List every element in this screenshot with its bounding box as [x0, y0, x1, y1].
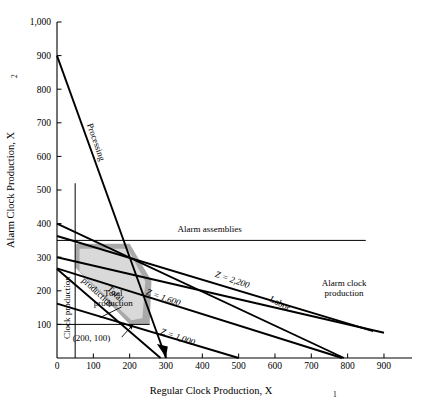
x-axis-title-text: Regular Clock Production, X	[150, 385, 273, 396]
y-tick-label: 800	[37, 85, 52, 95]
y-tick-label: 700	[37, 118, 52, 128]
x-tick-label: 600	[268, 361, 283, 371]
x-axis-title-subscript: 1	[333, 390, 337, 399]
constraint-alarm-assemblies-label: Alarm assemblies	[177, 224, 242, 234]
optimal-point-label: (200, 100)	[73, 333, 111, 343]
x-tick-label: 400	[195, 361, 210, 371]
x-axis-title: Regular Clock Production, X1	[150, 385, 337, 399]
x-tick-label: 300	[159, 361, 174, 371]
x-tick-label: 200	[123, 361, 138, 371]
y-tick-label: 100	[37, 320, 52, 330]
tick-labels-layer: 0100200300400500600700800900100200300400…	[30, 17, 392, 371]
x-tick-label: 700	[304, 361, 319, 371]
x-tick-label: 800	[341, 361, 356, 371]
lp-graph-svg: 0100200300400500600700800900100200300400…	[0, 0, 423, 407]
y-tick-label: 900	[37, 51, 52, 61]
linear-programming-figure: 0100200300400500600700800900100200300400…	[0, 0, 423, 407]
y-tick-label: 600	[37, 152, 52, 162]
constraint-alarm-clock-production-label-line1: Alarm clock	[322, 278, 367, 288]
y-axis-title: Alarm Clock Production, X2	[5, 74, 19, 248]
x-tick-label: 100	[86, 361, 101, 371]
constraint-labor-label: Labor	[268, 294, 292, 313]
axis-titles-layer: Regular Clock Production, X1Alarm Clock …	[5, 74, 337, 399]
constraint-clock-production-label: Clock production	[62, 276, 72, 339]
y-axis-title-subscript: 2	[10, 74, 19, 78]
x-tick-label: 900	[377, 361, 392, 371]
y-tick-label: 200	[37, 286, 52, 296]
constraint-lines-layer	[57, 56, 384, 358]
objective-z-1000-label: Z = 1,000	[159, 326, 197, 347]
constraint-alarm-clock-production-label-line2: production	[325, 288, 364, 298]
y-tick-label: 300	[37, 253, 52, 263]
y-tick-label: 1,000	[30, 17, 52, 27]
y-tick-label: 400	[37, 219, 52, 229]
constraint-line-processing	[57, 56, 166, 358]
y-tick-label: 500	[37, 185, 52, 195]
objective-z-2200-label: Z = 2,200	[214, 269, 252, 290]
x-tick-label: 500	[232, 361, 247, 371]
x-tick-label: 0	[55, 361, 60, 371]
y-axis-title-text: Alarm Clock Production, X	[5, 132, 16, 248]
constraint-alarm-clock-production-label: Alarm clockproduction	[322, 278, 367, 299]
